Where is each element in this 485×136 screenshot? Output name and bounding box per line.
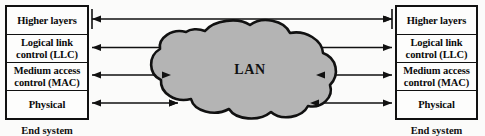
- layer-label: Logical link control (LLC): [16, 37, 78, 60]
- layer-label: Medium access control (MAC): [14, 65, 81, 88]
- end-system-right-stack: Higher layers Logical link control (LLC)…: [395, 5, 478, 120]
- layer-mac-left: Medium access control (MAC): [7, 63, 87, 91]
- layer-llc-left: Logical link control (LLC): [7, 35, 87, 63]
- layer-higher-layers-right: Higher layers: [397, 7, 476, 35]
- layer-label: Physical: [418, 99, 455, 111]
- layer-label: Higher layers: [407, 15, 466, 27]
- layer-label-line2: control (LLC): [406, 49, 468, 61]
- layer-label-line1: Logical link: [406, 37, 468, 49]
- layer-llc-right: Logical link control (LLC): [397, 35, 476, 63]
- lan-cloud: [151, 20, 336, 118]
- layer-label-line2: control (LLC): [16, 49, 78, 61]
- layer-label: Medium access control (MAC): [403, 65, 470, 88]
- layer-physical-right: Physical: [397, 91, 476, 118]
- layer-label: Logical link control (LLC): [406, 37, 468, 60]
- layer-label-line1: Medium access: [14, 65, 81, 77]
- layer-higher-layers-left: Higher layers: [7, 7, 87, 35]
- layer-label-line2: control (MAC): [403, 77, 470, 89]
- layer-label-line2: control (MAC): [14, 77, 81, 89]
- end-system-left-stack: Higher layers Logical link control (LLC)…: [5, 5, 89, 120]
- layer-label-line1: Medium access: [403, 65, 470, 77]
- layer-mac-right: Medium access control (MAC): [397, 63, 476, 91]
- layer-label: Physical: [29, 99, 66, 111]
- layer-label-line1: Logical link: [16, 37, 78, 49]
- arrow-physical-left: [92, 100, 178, 107]
- end-system-left-caption: End system: [5, 125, 89, 136]
- end-system-right-caption: End system: [395, 125, 478, 136]
- layer-label: Higher layers: [17, 15, 76, 27]
- layer-physical-left: Physical: [7, 91, 87, 118]
- diagram-canvas: LAN Higher layers Logical link control (…: [0, 0, 485, 136]
